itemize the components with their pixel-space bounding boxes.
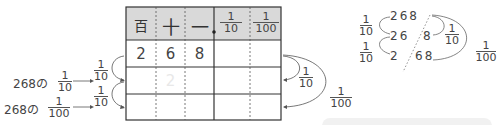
example-line-3-left: 2 — [390, 49, 398, 63]
label-fraction-hundredth: 1100 — [48, 96, 70, 119]
arrow-fraction-1: 110 — [94, 59, 108, 82]
cell-r1-ones: 8 — [185, 45, 214, 63]
header-hundredths: 1100 — [253, 11, 279, 34]
right-arrow-fraction-hundredth: 1100 — [330, 86, 352, 109]
example-right-fraction-tenth: 110 — [445, 23, 459, 46]
header-tens: 十 — [156, 13, 185, 39]
example-line-2-right: 8 — [423, 29, 431, 43]
label-268-of: 268の — [13, 74, 48, 91]
right-arrow-fraction-tenth: 110 — [299, 66, 313, 89]
header-tenths: 110 — [220, 11, 242, 34]
arrow-fraction-2: 110 — [94, 85, 108, 108]
cell-r2-tens: 2 — [156, 72, 185, 90]
example-left-fraction-1: 110 — [360, 14, 372, 37]
header-ones: 一 — [185, 13, 214, 39]
example-right-fraction-hundredth: 1100 — [476, 40, 496, 63]
header-hundreds: 百 — [126, 15, 156, 35]
label-268-of-2: 268の — [4, 100, 39, 117]
cell-r1-hundreds: 2 — [126, 45, 156, 63]
example-line-2-left: 26 — [390, 29, 409, 43]
example-left-fraction-2: 110 — [360, 41, 372, 64]
example-line-1: 268 — [390, 9, 419, 23]
label-fraction-tenth: 110 — [58, 70, 72, 93]
background-shape — [322, 118, 492, 125]
example-line-3-right: 68 — [415, 49, 434, 63]
cell-r1-tens: 6 — [156, 45, 185, 63]
